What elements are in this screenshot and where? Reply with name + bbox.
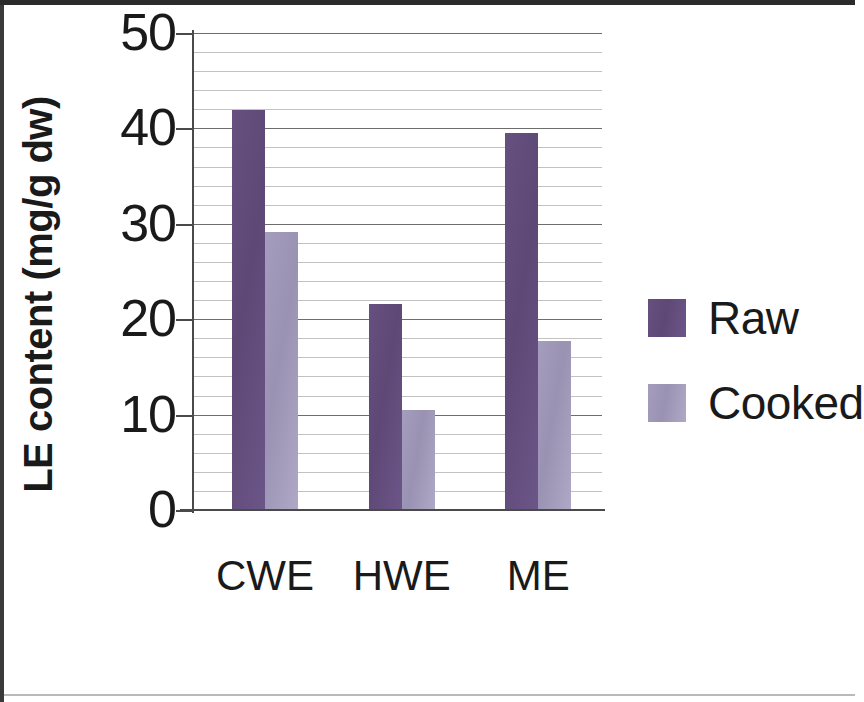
legend-label: Raw xyxy=(708,294,799,342)
bar-hwe-raw xyxy=(369,304,402,510)
y-tick-label: 10 xyxy=(56,388,176,440)
y-axis-line xyxy=(192,30,194,513)
y-axis-tick-labels: 01020304050 xyxy=(48,0,176,702)
y-axis-tick xyxy=(176,224,192,226)
x-tick-label-me: ME xyxy=(458,552,618,600)
scan-edge-left xyxy=(0,5,4,702)
y-tick-label: 0 xyxy=(56,483,176,535)
y-axis-tick xyxy=(176,415,192,417)
cooked-swatch-icon xyxy=(648,384,686,422)
raw-swatch-icon xyxy=(648,299,686,337)
x-axis-line xyxy=(180,509,605,511)
y-tick-label: 50 xyxy=(56,6,176,58)
bar-cwe-cooked xyxy=(265,232,298,510)
bar-me-raw xyxy=(505,133,538,510)
y-tick-label: 30 xyxy=(56,197,176,249)
y-axis-tick xyxy=(176,510,192,512)
y-axis-tick xyxy=(176,33,192,35)
y-tick-label: 40 xyxy=(56,101,176,153)
legend-label: Cooked xyxy=(708,379,864,427)
bar-cwe-raw xyxy=(232,110,265,510)
bar-me-cooked xyxy=(538,341,571,510)
y-axis-tick xyxy=(176,319,192,321)
legend-item-cooked[interactable]: Cooked xyxy=(648,377,864,429)
bar-group xyxy=(192,33,602,510)
y-tick-label: 20 xyxy=(56,292,176,344)
bar-hwe-cooked xyxy=(402,410,435,510)
legend-item-raw[interactable]: Raw xyxy=(648,292,799,344)
y-axis-tick xyxy=(176,128,192,130)
plot-area xyxy=(192,33,602,510)
x-axis-tick-labels: CWEHWEME xyxy=(192,552,602,612)
